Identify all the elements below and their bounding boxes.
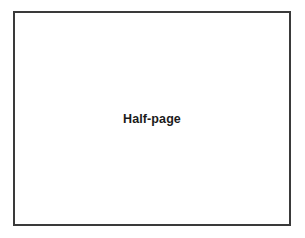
page-canvas: Half-page [0,0,305,238]
half-page-region[interactable]: Half-page [13,11,291,226]
half-page-label: Half-page [15,112,289,125]
